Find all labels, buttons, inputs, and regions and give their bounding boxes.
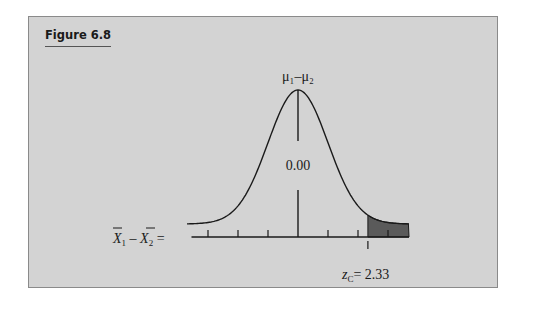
normal-distribution-plot: μ₁–μ₂ 0.00 X1 – X2 = zC= 2.33 — [29, 17, 499, 289]
figure-panel: Figure 6.8 μ₁–μ₂ 0.00 X1 – X2 = zC= 2.33 — [28, 16, 498, 288]
center-value-label: 0.00 — [286, 158, 311, 173]
mean-label: μ₁–μ₂ — [282, 69, 314, 84]
x-axis-label: X1 – X2 = — [112, 231, 165, 248]
critical-value-label: zC= 2.33 — [341, 267, 389, 284]
